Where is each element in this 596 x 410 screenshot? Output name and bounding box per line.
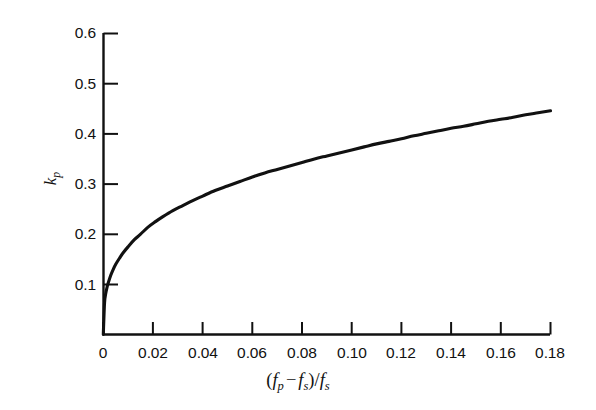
ytick-label-0.1: 0.1: [44, 276, 96, 294]
xtick-label-0.02: 0.02: [138, 344, 168, 362]
xtick-label-0: 0: [99, 344, 108, 362]
xtick-label-0.14: 0.14: [436, 344, 466, 362]
y-axis-ticks: [104, 34, 119, 285]
x-title-minus: −: [284, 370, 298, 390]
xtick-label-0.16: 0.16: [486, 344, 516, 362]
xtick-label-0.04: 0.04: [188, 344, 218, 362]
ytick-label-0.5: 0.5: [44, 75, 96, 93]
xtick-label-0.18: 0.18: [535, 344, 565, 362]
y-axis-title: kp: [41, 157, 62, 201]
ytick-label-0.6: 0.6: [44, 24, 96, 42]
y-axis-title-subscript: p: [50, 172, 63, 178]
x-title-denom-subscript: s: [325, 379, 330, 393]
y-axis-title-base: k: [41, 178, 60, 186]
ytick-label-0.4: 0.4: [44, 125, 96, 143]
xtick-label-0.10: 0.10: [337, 344, 367, 362]
chart-figure: 0.6 0.5 0.4 0.3 0.2 0.1 0 0.02 0.04 0.06…: [0, 0, 596, 410]
xtick-label-0.06: 0.06: [237, 344, 267, 362]
data-series-line: [103, 111, 550, 335]
x-axis-title: (fp−fs)/fs: [0, 370, 596, 394]
ytick-label-0.2: 0.2: [44, 225, 96, 243]
xtick-label-0.08: 0.08: [287, 344, 317, 362]
x-title-fp-subscript: p: [278, 379, 284, 393]
xtick-label-0.12: 0.12: [386, 344, 416, 362]
x-axis-ticks: [103, 322, 550, 335]
